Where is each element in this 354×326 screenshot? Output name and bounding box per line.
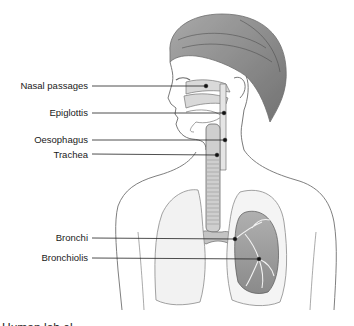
- torso-outline: [116, 150, 337, 310]
- label-nasal-passages: Nasal passages: [0, 80, 88, 91]
- caption-partial: Human lab el ...: [0, 318, 354, 326]
- label-oesophagus: Oesophagus: [0, 134, 88, 145]
- respiratory-diagram: Nasal passages Epiglottis Oesophagus Tra…: [0, 0, 354, 326]
- label-bronchi: Bronchi: [0, 232, 88, 243]
- lung-right: [155, 190, 205, 305]
- anatomy-illustration: [0, 0, 354, 326]
- label-bronchiolis: Bronchiolis: [0, 252, 88, 263]
- label-trachea: Trachea: [0, 149, 88, 160]
- lung-left: [227, 190, 287, 305]
- label-epiglottis: Epiglottis: [0, 107, 88, 118]
